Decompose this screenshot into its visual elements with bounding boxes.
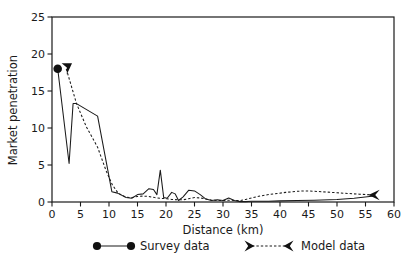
x-tick-label: 5	[77, 208, 84, 221]
x-tick-label: 60	[387, 208, 401, 221]
y-tick-label: 0	[38, 196, 45, 209]
y-tick-label: 20	[31, 48, 45, 61]
legend-label-model-data: Model data	[301, 239, 365, 253]
data-marker-circle	[53, 65, 62, 74]
x-tick-label: 40	[273, 208, 287, 221]
x-tick-label: 15	[131, 208, 145, 221]
x-tick-label: 50	[330, 208, 344, 221]
x-tick-label: 20	[159, 208, 173, 221]
market-penetration-line-chart: 0510152025 051015202530354045505560 Dist…	[0, 0, 413, 264]
y-axis-title: Market penetration	[6, 55, 20, 165]
x-tick-label: 55	[359, 208, 373, 221]
y-tick-label: 15	[31, 85, 45, 98]
x-tick-label: 45	[302, 208, 316, 221]
x-tick-label: 30	[216, 208, 230, 221]
legend-marker-circle-left	[93, 242, 101, 250]
x-tick-label: 10	[102, 208, 116, 221]
legend-marker-circle-right	[127, 242, 135, 250]
x-tick-label: 0	[49, 208, 56, 221]
x-tick-label: 25	[188, 208, 202, 221]
y-tick-label: 5	[38, 159, 45, 172]
chart-figure: 0510152025 051015202530354045505560 Dist…	[0, 0, 413, 264]
y-tick-label: 25	[31, 11, 45, 24]
x-axis-title: Distance (km)	[183, 223, 264, 237]
legend-label-survey-data: Survey data	[140, 239, 210, 253]
x-tick-label: 35	[245, 208, 259, 221]
y-tick-label: 10	[31, 122, 45, 135]
